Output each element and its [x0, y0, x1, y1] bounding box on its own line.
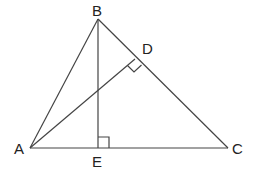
label-d: D: [142, 40, 153, 57]
label-b: B: [92, 2, 102, 19]
right-angle-mark-d: [128, 65, 142, 72]
segment-bc: [98, 19, 228, 148]
label-a: A: [14, 140, 24, 157]
label-e: E: [92, 153, 102, 170]
segment-ab: [30, 19, 98, 148]
triangle-diagram: A B C D E: [0, 0, 257, 176]
label-c: C: [232, 140, 243, 157]
altitude-ad: [30, 59, 135, 148]
right-angle-mark-e: [98, 137, 109, 148]
